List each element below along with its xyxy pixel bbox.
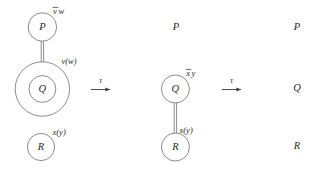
action-label-p1: v w — [53, 6, 65, 16]
stage-1-group: P v w Q v(w) R x(y) — [15, 6, 77, 160]
node-q3-label: Q — [293, 82, 301, 93]
node-r3-label: R — [293, 140, 301, 151]
stage-3-group: P Q R — [293, 21, 301, 151]
stage-2-group: P Q x y R x(y) — [161, 21, 195, 161]
node-p3-label: P — [293, 21, 301, 32]
node-q2[interactable]: Q — [161, 75, 189, 103]
transition-arrow-2: τ — [222, 76, 241, 92]
node-q2-label: Q — [172, 83, 180, 94]
action-label-p1-w: w — [59, 6, 65, 16]
reduction-diagram-svg: P v w Q v(w) R x(y) — [0, 0, 318, 170]
arrow-1-head — [105, 87, 110, 91]
node-r1-label: R — [37, 141, 45, 152]
node-q1[interactable]: Q — [15, 62, 69, 116]
action-label-q2-y: y — [190, 68, 195, 78]
node-r2-label: R — [171, 141, 179, 152]
diagram-canvas: P v w Q v(w) R x(y) — [0, 0, 318, 170]
action-label-p1-vbar: v — [53, 6, 57, 16]
action-label-q2-xbar: x — [185, 68, 190, 78]
arrow-2-head — [236, 87, 241, 91]
node-p1[interactable]: P — [28, 13, 56, 41]
action-label-r1: x(y) — [52, 127, 66, 137]
edge-q2-r2 — [174, 103, 176, 133]
arrow-2-tau-label: τ — [230, 76, 233, 85]
node-p1-label: P — [38, 21, 46, 32]
transition-arrow-1: τ — [91, 76, 110, 92]
node-r1[interactable]: R — [27, 133, 54, 160]
node-p2-label: P — [172, 21, 180, 32]
action-label-r2: x(y) — [179, 125, 193, 135]
action-label-q2: x y — [185, 68, 195, 78]
node-r2[interactable]: R — [161, 133, 189, 161]
action-label-q1: v(w) — [62, 56, 77, 66]
node-q1-label: Q — [39, 83, 47, 94]
edge-p1-q1 — [41, 41, 43, 62]
arrow-1-tau-label: τ — [99, 76, 102, 85]
